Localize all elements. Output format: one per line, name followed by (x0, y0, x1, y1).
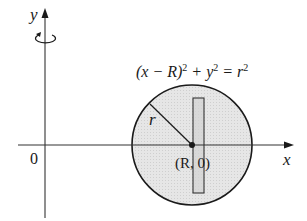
y-axis (42, 8, 49, 218)
x-axis-arrow-icon (284, 142, 294, 149)
center-label: (R, 0) (175, 155, 210, 172)
svg-text:(x − R)2 + y2 = r2: (x − R)2 + y2 = r2 (136, 62, 248, 81)
x-axis-label: x (282, 150, 291, 169)
eq-lhs: (x − R) (136, 63, 182, 81)
circle-equation: (x − R)2 + y2 = r2 (136, 62, 248, 81)
y-axis-label: y (28, 5, 38, 24)
torus-diagram: y x 0 r (R, 0) (x − R)2 + y2 = r2 (0, 0, 307, 221)
y-axis-arrow-icon (42, 8, 49, 18)
center-point (189, 142, 195, 148)
radius-label: r (149, 110, 156, 129)
origin-label: 0 (30, 150, 38, 167)
